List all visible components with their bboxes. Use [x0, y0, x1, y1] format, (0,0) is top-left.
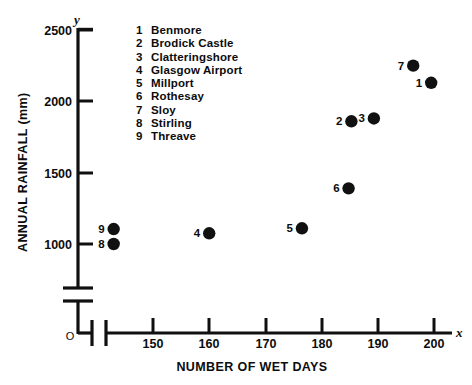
legend-item: 3Clatteringshore: [136, 51, 286, 64]
legend-item: 7Sloy: [136, 104, 286, 117]
legend-item-key: 8: [136, 117, 151, 130]
data-point-label: 1: [416, 77, 423, 89]
data-point-marker: [107, 238, 119, 250]
y-axis-letter: y: [72, 12, 80, 27]
y-tick-label-2500: 2500: [44, 24, 72, 38]
data-point-label: 7: [398, 60, 404, 72]
legend-item-label: Millport: [151, 77, 194, 90]
x-axis-group: 150 160 170 180 190 200 x NUMBER OF WET …: [92, 318, 463, 374]
legend-item-key: 6: [136, 90, 151, 103]
x-axis-letter: x: [455, 325, 463, 340]
data-point-marker: [345, 115, 357, 127]
data-point-marker: [342, 182, 354, 194]
data-point-label: 9: [98, 223, 104, 235]
data-point-marker: [107, 223, 119, 235]
legend-item-label: Brodick Castle: [151, 37, 234, 50]
y-tick-label-2000: 2000: [44, 95, 72, 109]
legend-item-key: 3: [136, 51, 151, 64]
legend-item-label: Stirling: [151, 117, 192, 130]
x-tick-label-160: 160: [199, 337, 220, 351]
x-axis-title: NUMBER OF WET DAYS: [176, 360, 327, 374]
legend-item-label: Benmore: [151, 24, 202, 37]
legend-item-label: Sloy: [151, 104, 176, 117]
legend-item-key: 2: [136, 37, 151, 50]
legend-item-key: 7: [136, 104, 151, 117]
x-tick-label-190: 190: [368, 337, 389, 351]
x-tick-label-150: 150: [143, 337, 164, 351]
data-point-label: 3: [358, 112, 364, 124]
legend-item: 8Stirling: [136, 117, 286, 130]
legend-item-label: Threave: [151, 130, 196, 143]
data-point-marker: [203, 227, 215, 239]
y-tick-label-1000: 1000: [44, 238, 72, 252]
legend-item: 6Rothesay: [136, 90, 286, 103]
origin-group: O: [66, 330, 92, 342]
legend-item-label: Rothesay: [151, 90, 204, 103]
legend-item-key: 1: [136, 24, 151, 37]
legend-item-key: 5: [136, 77, 151, 90]
x-tick-label-170: 170: [256, 337, 277, 351]
x-tick-label-180: 180: [312, 337, 333, 351]
legend-item-label: Glasgow Airport: [151, 64, 242, 77]
x-tick-label-200: 200: [424, 337, 445, 351]
data-point-label: 5: [287, 222, 294, 234]
legend-item: 9Threave: [136, 130, 286, 143]
data-point-marker: [368, 112, 380, 124]
legend-item-key: 9: [136, 130, 151, 143]
legend-item: 1Benmore: [136, 24, 286, 37]
legend-item-label: Clatteringshore: [151, 51, 238, 64]
data-point-marker: [407, 59, 419, 71]
legend-item: 4Glasgow Airport: [136, 64, 286, 77]
origin-label: O: [66, 330, 75, 342]
legend-item: 2Brodick Castle: [136, 37, 286, 50]
data-point-label: 2: [336, 115, 342, 127]
data-point-label: 4: [194, 227, 201, 239]
y-tick-label-1500: 1500: [44, 167, 72, 181]
data-point-label: 8: [98, 238, 105, 250]
legend: 1Benmore2Brodick Castle3Clatteringshore4…: [136, 24, 286, 144]
scatter-plot-figure: 2500 2000 1500 1000 y ANNUAL RAINFALL (m…: [0, 0, 472, 385]
y-axis-group: 2500 2000 1500 1000 y ANNUAL RAINFALL (m…: [16, 12, 93, 334]
y-axis-title: ANNUAL RAINFALL (mm): [16, 92, 30, 252]
data-point-marker: [425, 77, 437, 89]
data-point-marker: [296, 222, 308, 234]
legend-item-key: 4: [136, 64, 151, 77]
data-point-label: 6: [333, 182, 339, 194]
legend-item: 5Millport: [136, 77, 286, 90]
